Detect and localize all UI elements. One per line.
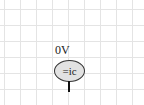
node-voltage-label: 0V xyxy=(55,44,70,56)
initial-condition-probe[interactable]: =ic xyxy=(54,60,85,82)
wire[interactable] xyxy=(68,81,70,92)
probe-label: =ic xyxy=(62,65,76,77)
schematic-canvas[interactable]: 0V =ic xyxy=(0,0,144,105)
